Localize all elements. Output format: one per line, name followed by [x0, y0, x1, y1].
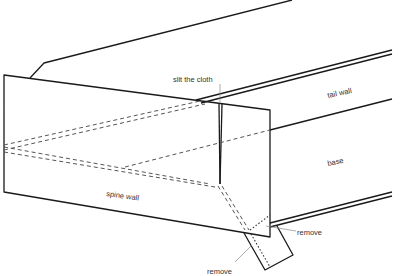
label-remove-bottom: remove — [207, 267, 232, 276]
tail-wall-edges — [196, 50, 392, 130]
label-tail-wall: tail wall — [327, 86, 353, 100]
spine-wall-panel — [4, 75, 270, 237]
label-slit-the-cloth: slit the cloth — [173, 75, 213, 84]
label-spine-wall: spine wall — [106, 189, 140, 203]
label-base: base — [327, 156, 345, 168]
hidden-fold-lines — [4, 101, 270, 230]
label-remove-right: remove — [297, 228, 322, 237]
base-bottom-edges — [270, 192, 392, 227]
lid-outline — [30, 0, 292, 78]
box-construction-diagram: slit the cloth tail wall base spine wall… — [0, 0, 403, 276]
diagram-svg: slit the cloth tail wall base spine wall… — [0, 0, 403, 276]
slit-line — [219, 104, 222, 184]
remove-tab — [244, 226, 293, 270]
